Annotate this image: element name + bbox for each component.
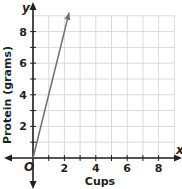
x-tick-label: 6	[123, 162, 131, 175]
y-tick-labels: 2468	[19, 26, 27, 134]
x-tick-labels: 2468	[61, 162, 163, 175]
protein-line	[33, 13, 69, 158]
x-tick-label: 2	[61, 162, 69, 175]
origin-label: O	[24, 160, 34, 174]
x-axis-variable: x	[175, 143, 182, 157]
chart-canvas: 2468 2468 Cups Protein (grams) x y O	[0, 0, 182, 189]
y-axis-title: Protein (grams)	[1, 46, 14, 144]
y-axis-arrow-up-icon	[30, 2, 37, 10]
axis-ticks	[30, 32, 159, 161]
grid-lines	[33, 16, 174, 158]
x-axis-title: Cups	[85, 175, 116, 188]
y-tick-label: 2	[19, 120, 27, 133]
y-tick-label: 8	[19, 26, 27, 39]
x-tick-label: 8	[155, 162, 163, 175]
x-tick-label: 4	[92, 162, 100, 175]
y-axis-variable: y	[22, 1, 31, 15]
y-tick-label: 4	[19, 89, 27, 102]
y-tick-label: 6	[19, 57, 27, 70]
y-axis-arrow-down-icon	[30, 181, 37, 189]
x-axis-arrow-left-icon	[4, 155, 12, 162]
